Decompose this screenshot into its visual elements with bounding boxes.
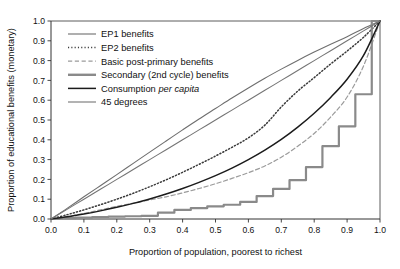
x-tick-label-4: 0.4	[177, 225, 189, 235]
x-tick-label-3: 0.3	[144, 225, 156, 235]
x-tick-label-9: 0.9	[341, 225, 353, 235]
y-tick-label-9: 0.9	[33, 36, 45, 46]
legend-label-3: Secondary (2nd cycle) benefits	[101, 70, 229, 80]
x-tick-label-5: 0.5	[210, 225, 222, 235]
y-tick-label-4: 0.4	[33, 135, 45, 145]
x-tick-label-8: 0.8	[308, 225, 320, 235]
y-tick-label-0: 0.0	[33, 214, 45, 224]
y-tick-label-6: 0.6	[33, 95, 45, 105]
y-tick-label-2: 0.2	[33, 175, 45, 185]
y-axis-title: Proportion of educational benefits (mone…	[6, 28, 16, 212]
x-tick-label-7: 0.7	[275, 225, 287, 235]
legend-label-0: EP1 benefits	[101, 29, 154, 39]
y-axis-ticks	[48, 21, 52, 219]
chart-figure: 0.00.10.20.30.40.50.60.70.80.91.0 0.00.1…	[0, 0, 400, 269]
y-tick-label-3: 0.3	[33, 155, 45, 165]
legend-label-4: Consumption per capita	[101, 84, 199, 94]
y-tick-label-7: 0.7	[33, 76, 45, 86]
x-axis-tick-labels: 0.00.10.20.30.40.50.60.70.80.91.0	[45, 225, 386, 235]
x-tick-label-6: 0.6	[242, 225, 254, 235]
legend-label-1: EP2 benefits	[101, 43, 154, 53]
y-axis-tick-labels: 0.00.10.20.30.40.50.60.70.80.91.0	[33, 16, 45, 224]
y-tick-label-10: 1.0	[33, 16, 45, 26]
lorenz-curve-chart: 0.00.10.20.30.40.50.60.70.80.91.0 0.00.1…	[0, 0, 400, 269]
x-tick-label-1: 0.1	[78, 225, 90, 235]
legend-label-5: 45 degrees	[101, 97, 148, 107]
y-tick-label-1: 0.1	[33, 194, 45, 204]
x-axis-title: Proportion of population, poorest to ric…	[129, 247, 303, 257]
y-tick-label-8: 0.8	[33, 56, 45, 66]
x-tick-label-10: 1.0	[374, 225, 386, 235]
x-tick-label-2: 0.2	[111, 225, 123, 235]
legend-label-2: Basic post-primary benefits	[101, 57, 213, 67]
y-tick-label-5: 0.5	[33, 115, 45, 125]
x-axis-ticks	[51, 219, 380, 223]
x-tick-label-0: 0.0	[45, 225, 57, 235]
